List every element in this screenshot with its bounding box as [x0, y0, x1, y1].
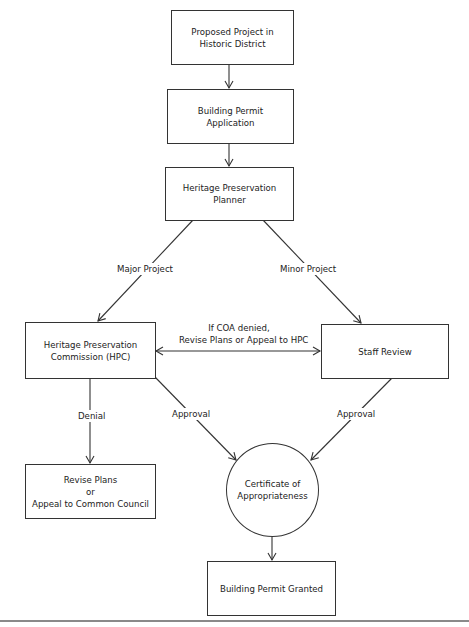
node-text-line: or — [86, 486, 95, 498]
edge-label-coa-denied: If COA denied, Revise Plans or Appeal to… — [178, 322, 300, 346]
edge-label-major-project: Major Project — [116, 263, 174, 275]
node-permit-granted: Building Permit Granted — [207, 561, 336, 616]
node-text-line: Historic District — [199, 38, 265, 50]
edge-label-line: If COA denied, — [179, 322, 299, 334]
node-text-line: Building Permit Granted — [220, 583, 323, 595]
edge-label-denial: Denial — [77, 410, 106, 422]
edge-label-minor-project: Minor Project — [279, 263, 337, 275]
node-text-line: Proposed Project in — [191, 26, 273, 38]
node-planner: Heritage Preservation Planner — [165, 167, 294, 221]
node-text-line: Staff Review — [358, 346, 411, 358]
node-hpc: Heritage Preservation Commission (HPC) — [25, 322, 156, 379]
node-revise-appeal: Revise Plans or Appeal to Common Council — [25, 464, 156, 519]
node-text-line: Heritage Preservation — [183, 182, 277, 194]
node-text-line: Building Permit — [198, 105, 263, 117]
edge-label-line: Revise Plans or Appeal to HPC — [179, 334, 299, 346]
node-text-line: Planner — [213, 194, 246, 206]
node-text-line: Appeal to Common Council — [32, 498, 149, 510]
edge-label-approval-staff: Approval — [336, 408, 376, 420]
node-staff-review: Staff Review — [321, 324, 449, 379]
node-text-line: Heritage Preservation — [44, 339, 138, 351]
edge-label-approval-hpc: Approval — [171, 408, 211, 420]
page-bottom-rule — [0, 620, 469, 622]
node-permit-application: Building Permit Application — [167, 89, 294, 144]
node-text-line: Revise Plans — [64, 474, 118, 486]
node-proposed-project: Proposed Project in Historic District — [171, 10, 294, 65]
node-text-line: Application — [206, 117, 254, 129]
node-certificate: Certificate of Appropriateness — [226, 443, 319, 537]
node-text-line: Certificate of — [245, 478, 301, 490]
node-text-line: Commission (HPC) — [51, 351, 131, 363]
node-text-line: Appropriateness — [237, 490, 307, 502]
